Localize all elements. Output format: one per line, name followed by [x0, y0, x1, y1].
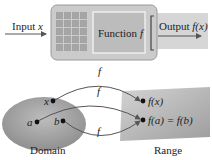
input-var: x [38, 20, 43, 32]
output-label: Output f(x) [159, 21, 208, 32]
arrow-label-1: f [98, 66, 101, 77]
point-x [51, 99, 56, 104]
function-label: Function f [98, 28, 143, 39]
point-b [61, 119, 66, 124]
output-var: f(x) [192, 20, 207, 32]
point-fa-fb [141, 118, 146, 123]
input-label: Input x [12, 21, 43, 32]
function-text: Function [98, 27, 140, 39]
point-a [35, 120, 40, 125]
domain-point-b: b [54, 116, 60, 127]
domain-point-a: a [27, 117, 33, 128]
input-text: Input [12, 20, 38, 32]
output-text: Output [159, 20, 192, 32]
range-label: Range [154, 145, 182, 156]
function-var: f [140, 27, 143, 39]
point-fx [141, 99, 146, 104]
range-point-fx: f(x) [148, 96, 163, 107]
arrow-label-3: f [97, 126, 100, 137]
domain-point-x: x [44, 96, 49, 107]
domain-label: Domain [30, 145, 65, 156]
arrow-label-2: f [97, 86, 100, 97]
range-point-fa-fb: f(a) = f(b) [148, 115, 193, 126]
